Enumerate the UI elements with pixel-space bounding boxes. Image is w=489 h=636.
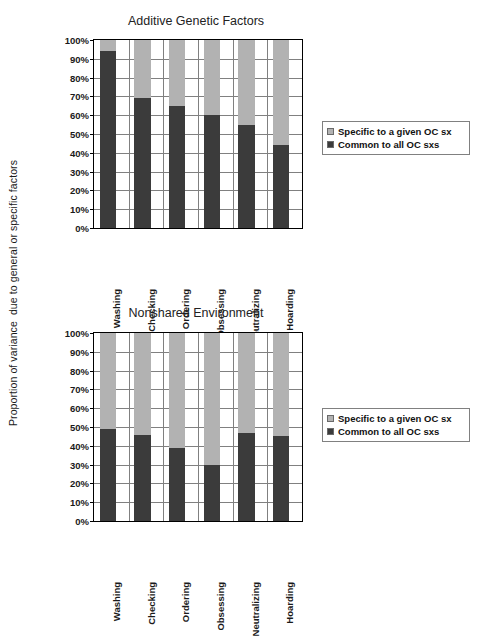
stacked-bar [134, 333, 150, 521]
plot-area: 0%10%20%30%40%50%60%70%80%90%100% [93, 332, 303, 522]
y-axis-tick-mark [90, 78, 94, 79]
legend-swatch-common-icon [327, 428, 334, 435]
gridline [94, 78, 302, 79]
y-axis-tick-label: 90% [47, 53, 89, 64]
legend-label-common: Common to all OC sxs [338, 138, 439, 151]
column-separator [163, 333, 164, 521]
bar-segment-specific [238, 333, 254, 433]
gridline [94, 172, 302, 173]
column-separator [198, 333, 199, 521]
y-axis-tick-label: 70% [47, 384, 89, 395]
y-axis-tick-mark [90, 172, 94, 173]
bar-segment-common [204, 465, 220, 521]
y-axis-tick-mark [90, 209, 94, 210]
y-axis-tick-label: 60% [47, 110, 89, 121]
gridline [94, 115, 302, 116]
gridline [94, 352, 302, 353]
chart-panel-nonshared-environment: Nonshared Environment 0%10%20%30%40%50%6… [26, 300, 489, 600]
bar-segment-specific [273, 40, 289, 145]
bar-segment-common [169, 106, 185, 228]
y-axis-tick-mark [90, 465, 94, 466]
stacked-bar [100, 333, 116, 521]
legend-label-specific: Specific to a given OC sx [338, 125, 452, 138]
gridline [94, 190, 302, 191]
y-axis-tick-mark [90, 115, 94, 116]
x-axis-tick-label: Washing [111, 582, 122, 621]
y-axis-title: Proportion of variance due to general or… [7, 38, 19, 548]
y-axis-tick-label: 0% [47, 516, 89, 527]
bar-segment-specific [238, 40, 254, 125]
gridline [94, 59, 302, 60]
gridline [94, 502, 302, 503]
bar-segment-common [273, 145, 289, 228]
gridline [94, 408, 302, 409]
gridline [94, 371, 302, 372]
stacked-bar [273, 40, 289, 228]
bar-segment-specific [204, 40, 220, 115]
x-axis-tick-label: Obsessing [215, 582, 226, 631]
x-axis-tick-label: Checking [146, 582, 157, 625]
stacked-bar [273, 333, 289, 521]
gridline [94, 389, 302, 390]
column-separator [267, 333, 268, 521]
gridline [94, 446, 302, 447]
bar-segment-specific [204, 333, 220, 465]
bar-segment-common [204, 115, 220, 228]
y-axis-tick-mark [90, 153, 94, 154]
stacked-bar [238, 40, 254, 228]
legend-item-specific: Specific to a given OC sx [327, 125, 464, 138]
y-axis-tick-mark [90, 389, 94, 390]
y-axis-tick-label: 50% [47, 129, 89, 140]
y-axis-tick-label: 70% [47, 91, 89, 102]
y-axis-tick-mark [90, 190, 94, 191]
stacked-bar [100, 40, 116, 228]
y-axis-tick-mark [90, 427, 94, 428]
y-axis-tick-label: 40% [47, 440, 89, 451]
bar-segment-common [238, 433, 254, 521]
bar-segment-specific [273, 333, 289, 436]
bar-segment-common [100, 429, 116, 521]
column-separator [233, 40, 234, 228]
y-axis-tick-label: 100% [47, 35, 89, 46]
column-separator [163, 40, 164, 228]
chart-title: Nonshared Environment [66, 306, 326, 320]
y-axis-tick-label: 60% [47, 403, 89, 414]
y-axis-tick-mark [90, 333, 94, 334]
y-axis-tick-label: 30% [47, 166, 89, 177]
y-axis-tick-mark [90, 352, 94, 353]
y-axis-tick-label: 0% [47, 223, 89, 234]
gridline [94, 209, 302, 210]
x-axis-tick-label: Neutralizing [250, 582, 261, 636]
y-axis-tick-mark [90, 408, 94, 409]
x-axis-labels: WashingCheckingOrderingObsessingNeutrali… [93, 524, 303, 586]
stacked-bar [169, 333, 185, 521]
y-axis-tick-mark [90, 446, 94, 447]
bar-segment-specific [134, 333, 150, 435]
stacked-bar [204, 40, 220, 228]
y-axis-tick-label: 50% [47, 422, 89, 433]
bar-segment-common [238, 125, 254, 228]
legend-item-specific: Specific to a given OC sx [327, 412, 464, 425]
legend-item-common: Common to all OC sxs [327, 425, 464, 438]
bar-segment-common [169, 448, 185, 521]
y-axis-tick-label: 10% [47, 204, 89, 215]
gridline [94, 483, 302, 484]
gridline [94, 465, 302, 466]
y-axis-tick-mark [90, 502, 94, 503]
legend-swatch-specific-icon [327, 415, 334, 422]
y-axis-tick-label: 30% [47, 459, 89, 470]
y-axis-tick-label: 20% [47, 478, 89, 489]
y-axis-tick-mark [90, 371, 94, 372]
y-axis-tick-mark [90, 483, 94, 484]
y-axis-tick-label: 80% [47, 72, 89, 83]
bar-segment-specific [169, 40, 185, 106]
legend-swatch-specific-icon [327, 128, 334, 135]
bar-segment-common [273, 436, 289, 521]
plot-area: 0%10%20%30%40%50%60%70%80%90%100% [93, 39, 303, 229]
column-separator [129, 333, 130, 521]
y-axis-tick-mark [90, 59, 94, 60]
y-axis-tick-label: 100% [47, 328, 89, 339]
legend: Specific to a given OC sx Common to all … [322, 408, 470, 442]
x-axis-tick-label: Hoarding [284, 582, 295, 624]
stacked-bar [204, 333, 220, 521]
